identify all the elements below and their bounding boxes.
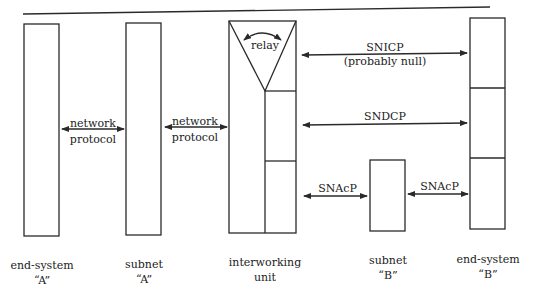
node-label-line1: end-system — [450, 252, 526, 267]
subnet-b-box — [370, 160, 405, 231]
relay-label: relay — [245, 38, 285, 53]
sndcp-label: SNDCP — [335, 109, 435, 124]
link-label-line2: protocol — [166, 130, 224, 145]
interworking-unit-label: interworking unit — [225, 255, 305, 285]
end-system-b-label: end-system “B” — [450, 252, 526, 282]
end-system-b-box — [470, 18, 505, 229]
top-rule — [23, 7, 490, 14]
subnet-b-label: subnet “B” — [352, 253, 424, 283]
node-label-line2: “B” — [352, 268, 424, 283]
snicp-label: SNICP (probably null) — [335, 40, 435, 69]
node-label-line1: subnet — [108, 257, 180, 272]
node-label-line1: interworking — [225, 255, 305, 270]
snacp-label-2: SNAcP — [412, 179, 467, 194]
link-label-line1: network — [166, 114, 224, 129]
link-label-line1: SNICP — [335, 40, 435, 55]
network-protocol-label-2: network protocol — [166, 114, 224, 145]
link-label-line2: (probably null) — [335, 54, 435, 69]
node-label-line2: unit — [225, 270, 305, 285]
snacp-label-1: SNAcP — [310, 181, 365, 196]
end-system-a-label: end-system “A” — [6, 258, 78, 288]
link-label-line1: network — [64, 116, 122, 131]
node-label-line1: subnet — [352, 253, 424, 268]
subnet-a-box — [126, 23, 161, 235]
node-label-line2: “A” — [6, 273, 78, 288]
node-label-line1: end-system — [6, 258, 78, 273]
node-label-line2: “B” — [450, 267, 526, 282]
end-system-a-box — [24, 24, 59, 236]
node-label-line2: “A” — [108, 272, 180, 287]
subnet-a-label: subnet “A” — [108, 257, 180, 287]
network-protocol-label-1: network protocol — [64, 116, 122, 147]
link-label-line2: protocol — [64, 132, 122, 147]
